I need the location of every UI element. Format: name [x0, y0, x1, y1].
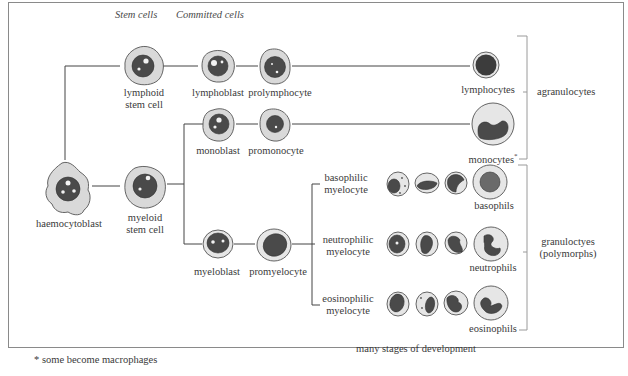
footnote-mark: * — [514, 152, 518, 160]
header-committed-cells: Committed cells — [176, 9, 244, 20]
promyelocyte-cell — [257, 229, 291, 261]
label-line: myeloid — [120, 212, 170, 224]
monoblast-cell — [203, 109, 234, 141]
label-line: myelocyte — [321, 184, 371, 196]
label-basophils: basophils — [470, 200, 518, 212]
label-haemocytoblast: haemocytoblast — [35, 218, 103, 230]
lymphoblast-cell — [202, 50, 234, 82]
label-granulocytes: granuloctyes (polymorphs) — [532, 236, 604, 260]
monocyte-cell — [472, 103, 514, 145]
label-line: granuloctyes — [532, 236, 604, 248]
label-myeloblast: myeloblast — [189, 266, 245, 278]
label-line: eosinophilic — [319, 293, 377, 305]
label-lymphoid-stem-cell: lymphoid stem cell — [120, 87, 168, 111]
label-agranulocytes: agranulocytes — [537, 86, 595, 98]
label-basophilic-myelocyte: basophilic myelocyte — [321, 172, 371, 196]
header-stem-cells: Stem cells — [115, 9, 157, 20]
label-line: neutrophilic — [319, 234, 377, 246]
neutrophil-series — [387, 227, 508, 261]
label-monocytes: monocytes* — [466, 150, 520, 166]
label-promonocyte: promonocyte — [245, 145, 307, 157]
haemocytoblast-cell — [46, 162, 90, 214]
label-monoblast: monoblast — [191, 145, 245, 157]
label-line: (polymorphs) — [532, 248, 604, 260]
label-line: lymphoid — [120, 87, 168, 99]
label-neutrophilic-myelocyte: neutrophilic myelocyte — [319, 234, 377, 258]
label-lymphocytes: lymphocytes — [460, 84, 516, 96]
label-neutrophils: neutrophils — [466, 262, 520, 274]
label-line: stem cell — [120, 99, 168, 111]
label-stages-of-development: many stages of development — [356, 343, 476, 355]
basophil-series — [387, 165, 507, 199]
label-lymphoblast: lymphoblast — [186, 87, 250, 99]
label-line: stem cell — [120, 224, 170, 236]
haematopoiesis-diagram — [0, 0, 628, 376]
label-eosinophils: eosinophils — [466, 323, 520, 335]
promonocyte-cell — [260, 109, 290, 141]
myeloid-stem-cell — [125, 166, 166, 208]
lymphocyte-cell — [473, 52, 499, 78]
label-text: monocytes — [469, 154, 515, 165]
lymphoid-stem-cell — [125, 46, 163, 84]
label-line: basophilic — [321, 172, 371, 184]
label-line: myelocyte — [319, 305, 377, 317]
label-prolymphocyte: prolymphocyte — [246, 87, 314, 99]
group-brackets — [517, 36, 527, 330]
prolymphocyte-cell — [260, 49, 290, 84]
eosinophil-series — [387, 286, 508, 320]
label-line: myelocyte — [319, 246, 377, 258]
footnote-macrophages: * some become macrophages — [34, 354, 157, 366]
myeloblast-cell — [203, 230, 233, 258]
label-myeloid-stem-cell: myeloid stem cell — [120, 212, 170, 236]
label-promyelocyte: promyelocyte — [246, 266, 310, 278]
label-eosinophilic-myelocyte: eosinophilic myelocyte — [319, 293, 377, 317]
